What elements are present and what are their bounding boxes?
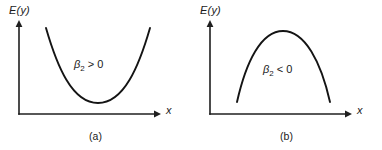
- beta-relation-b: < 0: [277, 63, 293, 75]
- panel-caption-b: (b): [191, 130, 382, 142]
- panel-caption-a: (a): [0, 130, 191, 142]
- beta-relation-a: > 0: [88, 58, 104, 70]
- y-axis-arrowhead: [207, 20, 214, 27]
- y-axis-label-b: E(y): [200, 4, 221, 16]
- annotation-beta2-negative: β2< 0: [263, 63, 292, 78]
- y-axis-label-a: E(y): [9, 4, 30, 16]
- y-axis-arrowhead: [16, 20, 23, 27]
- annotation-beta2-positive: β2> 0: [74, 58, 103, 73]
- panel-a-graphics: [0, 0, 191, 150]
- figure-root: E(y) x β2> 0 (a) E(y) x β2< 0 (b): [0, 0, 382, 150]
- x-axis-label-a: x: [166, 104, 172, 116]
- beta-subscript-a: 2: [80, 64, 84, 73]
- x-axis-arrowhead: [345, 111, 352, 118]
- chart-panel-b: E(y) x β2< 0 (b): [191, 0, 382, 150]
- beta-subscript-b: 2: [269, 69, 273, 78]
- chart-panel-a: E(y) x β2> 0 (a): [0, 0, 191, 150]
- x-axis-arrowhead: [154, 111, 161, 118]
- x-axis-label-b: x: [357, 104, 363, 116]
